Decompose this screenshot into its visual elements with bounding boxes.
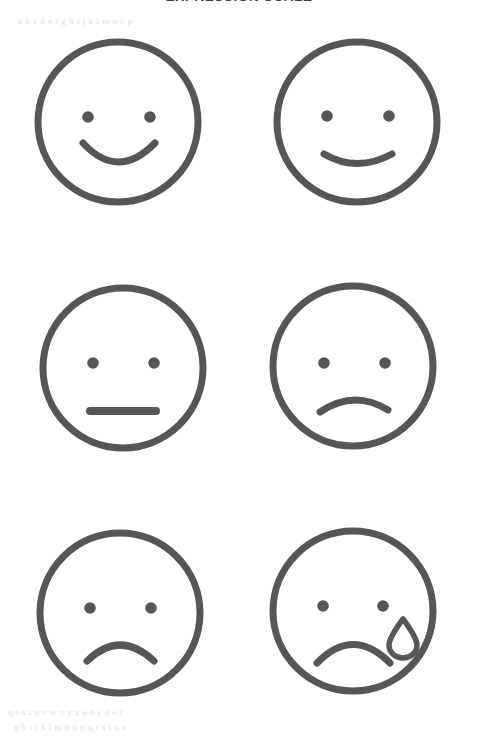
mouth-deep-frown [317, 645, 390, 664]
face-outline-circle [277, 42, 437, 202]
scan-artifact: g h i j k l m n o p q r s t u v [14, 722, 464, 732]
right-eye [377, 600, 389, 612]
left-eye [318, 357, 330, 369]
left-eye [321, 110, 333, 122]
mouth-big-smile [83, 143, 155, 162]
page-title-container: EXPRESSION SCALE [0, 0, 478, 5]
face-outline-circle [43, 288, 203, 448]
face-crying[interactable] [268, 526, 438, 696]
right-eye [148, 357, 160, 369]
right-eye [383, 110, 395, 122]
face-outline-circle [273, 531, 433, 691]
scan-artifact: q r s t u v w x y z a b c d e f [8, 707, 458, 717]
expression-scale-sheet: a b c d e f g h i j k l m n o p q r s t … [0, 0, 478, 746]
right-eye [379, 357, 391, 369]
face-outline-circle [40, 533, 200, 693]
left-eye [84, 602, 96, 614]
face-neutral[interactable] [38, 283, 208, 453]
right-eye [144, 111, 156, 123]
mouth-slight-frown [320, 400, 388, 412]
face-happy[interactable] [33, 37, 203, 207]
face-outline-circle [38, 42, 198, 202]
left-eye [317, 600, 329, 612]
scan-artifact: a b c d e f g h i j k l m n o p [18, 16, 458, 26]
mouth-slight-smile [324, 154, 392, 164]
left-eye [82, 111, 94, 123]
face-slightly-sad[interactable] [268, 281, 438, 451]
face-sad[interactable] [35, 528, 205, 698]
face-outline-circle [273, 286, 433, 446]
left-eye [87, 357, 99, 369]
face-slightly-happy[interactable] [272, 37, 442, 207]
right-eye [145, 602, 157, 614]
page-title: EXPRESSION SCALE [0, 0, 478, 4]
mouth-frown [87, 645, 154, 661]
teardrop-icon [389, 619, 417, 658]
